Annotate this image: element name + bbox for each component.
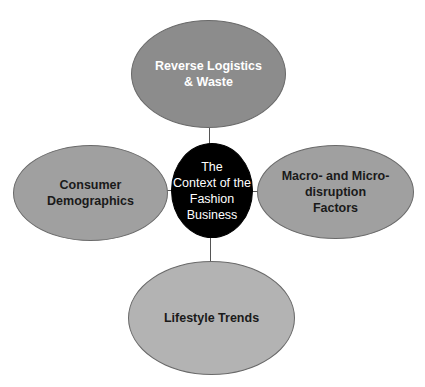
connector-bottom [210, 236, 211, 262]
node-macro-micro-disruption: Macro- and Micro- disruption Factors [257, 145, 414, 239]
center-label: The Context of the Fashion Business [169, 159, 255, 223]
connector-top [209, 127, 210, 144]
node-consumer-demographics: Consumer Demographics [13, 145, 168, 241]
node-label: Lifestyle Trends [154, 310, 269, 326]
node-label: Reverse Logistics & Waste [145, 58, 272, 90]
node-lifestyle-trends: Lifestyle Trends [128, 261, 295, 375]
node-center-fashion-business-context: The Context of the Fashion Business [171, 143, 253, 238]
node-label: Macro- and Micro- disruption Factors [272, 168, 400, 216]
node-reverse-logistics-waste: Reverse Logistics & Waste [131, 20, 286, 128]
node-label: Consumer Demographics [37, 177, 144, 209]
diagram-canvas: Reverse Logistics & Waste Consumer Demog… [0, 0, 425, 387]
